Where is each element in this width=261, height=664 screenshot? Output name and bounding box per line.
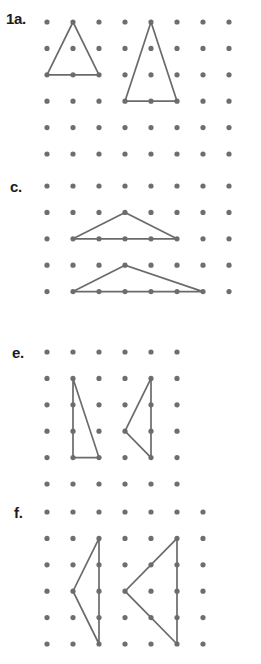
grid-dot [70, 536, 75, 541]
grid-dot [174, 641, 179, 646]
grid-dot [122, 236, 127, 241]
grid-dot [44, 46, 49, 51]
triangle-1a-left [47, 22, 99, 75]
grid-dot [174, 376, 179, 381]
grid-dot [44, 429, 49, 434]
grid-dot [70, 72, 75, 77]
grid-dot [44, 183, 49, 188]
grid-dot [226, 210, 231, 215]
grid-dot [44, 210, 49, 215]
grid-dot [148, 589, 153, 594]
grid-dot [122, 376, 127, 381]
grid-dot [44, 349, 49, 354]
grid-dot [44, 289, 49, 294]
grid-dot [96, 236, 101, 241]
grid-dot [44, 641, 49, 646]
grid-dot [174, 562, 179, 567]
grid-dot [200, 509, 205, 514]
grid-dot [174, 509, 179, 514]
triangle-f-right [125, 538, 177, 644]
grid-dot [226, 289, 231, 294]
grid-dot [200, 263, 205, 268]
section-label-f: f. [14, 505, 23, 520]
grid-dot [174, 615, 179, 620]
grid-dot [70, 210, 75, 215]
grid-dot [122, 72, 127, 77]
grid-dot [148, 536, 153, 541]
section-e-grid [0, 0, 261, 664]
grid-dot [226, 263, 231, 268]
grid-dot [200, 210, 205, 215]
grid-dot [122, 641, 127, 646]
section-c: c. [0, 0, 261, 664]
grid-dot [70, 263, 75, 268]
grid-dot [122, 402, 127, 407]
grid-dot [148, 99, 153, 104]
grid-dot [200, 536, 205, 541]
grid-dot [148, 72, 153, 77]
grid-dot [174, 125, 179, 130]
grid-dot [96, 429, 101, 434]
grid-dot [96, 19, 101, 24]
grid-dot [226, 125, 231, 130]
grid-dot [70, 19, 75, 24]
grid-dot [96, 536, 101, 541]
grid-dot [148, 19, 153, 24]
grid-dot [200, 99, 205, 104]
grid-dot [96, 615, 101, 620]
grid-dot [200, 562, 205, 567]
grid-dot [226, 72, 231, 77]
grid-dot [44, 236, 49, 241]
grid-dot [174, 210, 179, 215]
grid-dot [96, 99, 101, 104]
grid-dot [70, 509, 75, 514]
grid-dot [70, 641, 75, 646]
grid-dot [148, 151, 153, 156]
grid-dot [122, 289, 127, 294]
section-label-e: e. [12, 345, 24, 360]
grid-dot [148, 615, 153, 620]
grid-dot [122, 589, 127, 594]
grid-dot [122, 536, 127, 541]
grid-dot [44, 99, 49, 104]
grid-dot [200, 236, 205, 241]
triangle-f-left [73, 538, 99, 644]
grid-dot [96, 46, 101, 51]
section-e: e. [0, 0, 261, 664]
grid-dot [148, 376, 153, 381]
section-f-grid [0, 0, 261, 664]
section-f: f. [0, 0, 261, 664]
grid-dot [44, 615, 49, 620]
grid-dot [174, 402, 179, 407]
grid-dot [44, 263, 49, 268]
grid-dot [148, 509, 153, 514]
grid-dot [200, 183, 205, 188]
grid-dot [174, 589, 179, 594]
grid-dot [148, 641, 153, 646]
grid-dot [148, 429, 153, 434]
grid-dot [174, 481, 179, 486]
grid-dot [44, 589, 49, 594]
grid-dot [44, 509, 49, 514]
grid-dot [96, 562, 101, 567]
grid-dot [200, 46, 205, 51]
grid-dot [174, 19, 179, 24]
grid-dot [122, 429, 127, 434]
grid-dot [122, 151, 127, 156]
grid-dot [70, 429, 75, 434]
grid-dot [174, 349, 179, 354]
grid-dot [96, 641, 101, 646]
grid-dot [44, 402, 49, 407]
grid-dot [44, 125, 49, 130]
grid-dot [122, 99, 127, 104]
grid-dot [122, 183, 127, 188]
grid-dot [70, 615, 75, 620]
grid-dot [174, 183, 179, 188]
dot-lattice [44, 349, 179, 486]
grid-dot [122, 509, 127, 514]
grid-dot [96, 455, 101, 460]
section-label-c: c. [10, 179, 22, 194]
grid-dot [44, 72, 49, 77]
grid-dot [148, 349, 153, 354]
grid-dot [70, 183, 75, 188]
